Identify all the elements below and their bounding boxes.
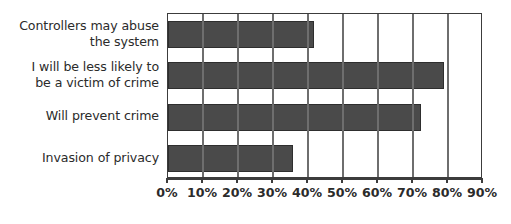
x-tick-label: 50%: [327, 186, 357, 200]
bar: [168, 21, 314, 48]
bar-track: [168, 14, 481, 55]
bar: [168, 145, 293, 172]
x-tick-label: 80%: [432, 186, 462, 200]
x-tick-mark: [446, 178, 447, 183]
x-tick-label: 0%: [156, 186, 177, 200]
gridline: [307, 14, 308, 177]
category-label: Invasion of privacy: [0, 137, 159, 178]
x-axis: 0%10%20%30%40%50%60%70%80%90%: [167, 178, 482, 218]
x-tick-mark: [481, 178, 482, 183]
bar-chart: Controllers may abuse the system I will …: [0, 0, 511, 224]
category-label: I will be less likely to be a victim of …: [0, 54, 159, 95]
gridline: [272, 14, 273, 177]
x-tick-label: 10%: [187, 186, 217, 200]
category-label: Controllers may abuse the system: [0, 13, 159, 54]
bar-track: [168, 97, 481, 138]
x-tick-label: 40%: [292, 186, 322, 200]
x-tick-mark: [201, 178, 202, 183]
x-tick-mark: [166, 178, 167, 183]
x-tick-mark: [411, 178, 412, 183]
gridline: [377, 14, 378, 177]
x-tick-label: 60%: [362, 186, 392, 200]
x-tick-label: 30%: [257, 186, 287, 200]
gridline: [342, 14, 343, 177]
x-tick-label: 20%: [222, 186, 252, 200]
category-axis-labels: Controllers may abuse the system I will …: [0, 13, 163, 178]
bar-track: [168, 55, 481, 96]
category-label: Will prevent crime: [0, 96, 159, 137]
plot-area: [167, 13, 482, 178]
x-tick-label: 70%: [397, 186, 427, 200]
x-tick-mark: [236, 178, 237, 183]
x-tick-label: 90%: [467, 186, 497, 200]
gridline: [237, 14, 238, 177]
x-tick-mark: [306, 178, 307, 183]
gridline: [447, 14, 448, 177]
x-tick-mark: [341, 178, 342, 183]
x-tick-mark: [271, 178, 272, 183]
bar: [168, 104, 421, 131]
bar-track: [168, 138, 481, 179]
gridline: [202, 14, 203, 177]
x-tick-mark: [376, 178, 377, 183]
x-axis-line: [167, 178, 482, 180]
gridline: [412, 14, 413, 177]
bar: [168, 62, 444, 89]
